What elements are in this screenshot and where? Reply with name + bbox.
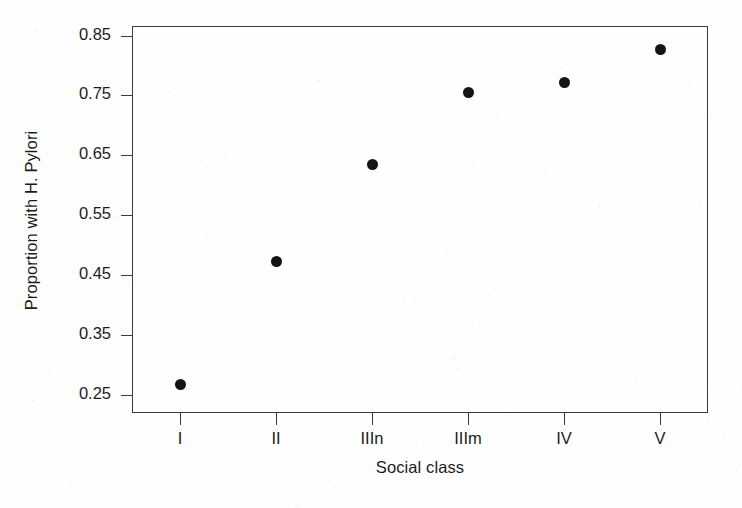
y-axis-title-text: Proportion with H. Pylori xyxy=(23,130,42,309)
y-tick-mark xyxy=(121,275,132,276)
x-tick-label: IIIn xyxy=(332,429,412,448)
y-tick-mark xyxy=(121,335,132,336)
x-axis-title: Social class xyxy=(132,458,708,477)
data-point-IIIn xyxy=(367,159,378,170)
y-tick-label: 0.85 xyxy=(47,25,111,44)
data-point-II xyxy=(271,256,282,267)
x-tick-mark xyxy=(660,413,661,425)
x-tick-label: IIIm xyxy=(428,429,508,448)
y-tick-label: 0.45 xyxy=(47,264,111,283)
x-tick-label: II xyxy=(236,429,316,448)
y-tick-label: 0.75 xyxy=(47,84,111,103)
y-tick-label: 0.25 xyxy=(47,384,111,403)
x-tick-mark xyxy=(276,413,277,425)
x-tick-mark xyxy=(180,413,181,425)
x-tick-mark xyxy=(372,413,373,425)
x-tick-label: V xyxy=(620,429,700,448)
y-tick-mark xyxy=(121,395,132,396)
y-tick-label: 0.55 xyxy=(47,204,111,223)
data-point-IV xyxy=(559,77,570,88)
y-tick-label: 0.65 xyxy=(47,144,111,163)
y-axis-title: Proportion with H. Pylori xyxy=(14,0,50,440)
x-tick-mark xyxy=(564,413,565,425)
data-point-I xyxy=(175,379,186,390)
plot-area xyxy=(132,26,708,413)
x-tick-label: I xyxy=(140,429,220,448)
data-point-V xyxy=(655,44,666,55)
x-tick-label: IV xyxy=(524,429,604,448)
y-tick-label: 0.35 xyxy=(47,324,111,343)
y-tick-mark xyxy=(121,95,132,96)
y-tick-mark xyxy=(121,36,132,37)
y-tick-mark xyxy=(121,155,132,156)
data-point-IIIm xyxy=(463,87,474,98)
x-tick-mark xyxy=(468,413,469,425)
scatter-chart-figure: Proportion with H. Pylori 0.250.350.450.… xyxy=(0,0,742,508)
y-tick-mark xyxy=(121,215,132,216)
